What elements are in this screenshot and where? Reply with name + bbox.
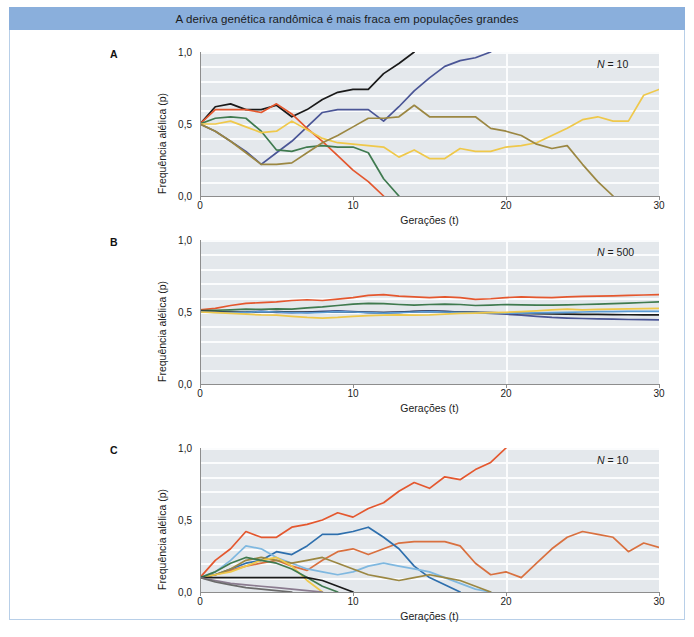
n-symbol: N bbox=[597, 246, 605, 258]
x-tick-label: 20 bbox=[500, 388, 511, 399]
y-axis-label: Frequência alélica (p) bbox=[156, 489, 168, 590]
x-axis-line bbox=[200, 592, 659, 593]
x-tick-label: 0 bbox=[197, 388, 203, 399]
series-line bbox=[200, 89, 659, 158]
x-tick-label: 0 bbox=[197, 596, 203, 607]
n-symbol: N bbox=[597, 58, 605, 70]
y-axis-label: Frequência alélica (p) bbox=[156, 93, 168, 194]
x-tick-label: 30 bbox=[653, 200, 664, 211]
series-line bbox=[200, 52, 414, 124]
population-size-annotation: N = 10 bbox=[597, 454, 628, 466]
panel-letter-c: C bbox=[110, 444, 118, 456]
x-axis-label: Gerações (t) bbox=[400, 610, 458, 622]
y-axis-line bbox=[200, 240, 201, 384]
series-line bbox=[200, 105, 613, 196]
y-axis-line bbox=[200, 448, 201, 592]
x-tick-label: 0 bbox=[197, 200, 203, 211]
x-tick-label: 10 bbox=[347, 596, 358, 607]
figure-root: A deriva genética randômica é mais fraca… bbox=[0, 0, 694, 637]
x-axis-line bbox=[200, 384, 659, 385]
n-symbol: N bbox=[597, 454, 605, 466]
plot-area-b bbox=[200, 240, 659, 384]
n-value: = 500 bbox=[605, 246, 635, 258]
y-axis-line bbox=[200, 52, 201, 196]
series-line bbox=[200, 295, 659, 310]
series-canvas bbox=[200, 240, 659, 384]
panel-letter-b: B bbox=[110, 236, 118, 248]
figure-caption bbox=[9, 627, 685, 637]
series-canvas bbox=[200, 52, 659, 196]
population-size-annotation: N = 500 bbox=[597, 246, 634, 258]
series-canvas bbox=[200, 448, 659, 592]
n-value: = 10 bbox=[605, 454, 629, 466]
panel-letter-a: A bbox=[110, 48, 118, 60]
series-line bbox=[200, 117, 399, 196]
x-axis-label: Gerações (t) bbox=[400, 214, 458, 226]
y-tick-label: 1,0 bbox=[162, 443, 192, 454]
x-axis-label: Gerações (t) bbox=[400, 402, 458, 414]
x-axis-line bbox=[200, 196, 659, 197]
x-tick-label: 30 bbox=[653, 596, 664, 607]
x-tick-label: 20 bbox=[500, 200, 511, 211]
x-tick-label: 30 bbox=[653, 388, 664, 399]
n-value: = 10 bbox=[605, 58, 629, 70]
x-tick-label: 10 bbox=[347, 388, 358, 399]
y-axis-label: Frequência alélica (p) bbox=[156, 281, 168, 382]
figure-title: A deriva genética randômica é mais fraca… bbox=[175, 13, 518, 25]
figure-title-banner: A deriva genética randômica é mais fraca… bbox=[9, 7, 685, 30]
plot-area-a bbox=[200, 52, 659, 196]
y-tick-label: 1,0 bbox=[162, 235, 192, 246]
y-tick-label: 1,0 bbox=[162, 47, 192, 58]
x-tick-label: 10 bbox=[347, 200, 358, 211]
series-line bbox=[200, 532, 659, 578]
plot-area-c bbox=[200, 448, 659, 592]
x-tick-label: 20 bbox=[500, 596, 511, 607]
population-size-annotation: N = 10 bbox=[597, 58, 628, 70]
series-line bbox=[200, 311, 659, 313]
